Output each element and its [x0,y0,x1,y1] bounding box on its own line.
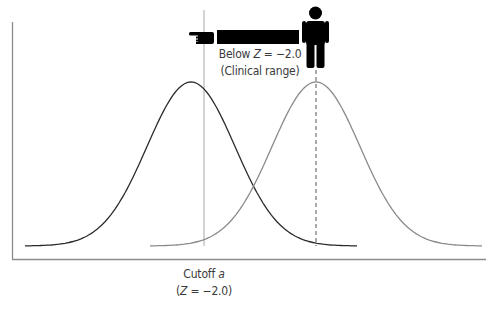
cutoff-label-variable: a [218,267,224,281]
clinical-range-bar [217,30,299,44]
cutoff-z-value: = −2.0) [187,284,232,298]
cutoff-label-prefix: Cutoff [183,267,218,281]
cutoff-label-line1: Cutoff a [183,267,224,281]
annotation-value: = −2.0 [261,47,302,61]
annotation-prefix: Below [219,47,254,61]
clinical-range-annotation-line1: Below Z = −2.0 [219,47,302,61]
clinical-distribution-curve [25,82,357,246]
pointing-hand-icon [189,32,214,44]
cutoff-label-line2: (Z = −2.0) [176,284,232,298]
annotation-variable: Z [253,47,260,61]
clinical-range-annotation-line2: (Clinical range) [221,64,300,78]
person-icon [302,7,329,69]
